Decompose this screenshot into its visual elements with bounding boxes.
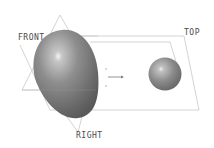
model-graphics [0,0,214,148]
right-plane-label[interactable]: RIGHT [76,132,103,140]
top-plane-label[interactable]: TOP [184,29,200,37]
csys-marker-icon [105,68,124,87]
small-sphere-body[interactable] [149,58,182,91]
model-viewport[interactable]: FRONT TOP RIGHT [0,0,214,148]
front-plane-label[interactable]: FRONT [18,34,45,42]
large-ellipsoid-body[interactable] [33,30,98,118]
